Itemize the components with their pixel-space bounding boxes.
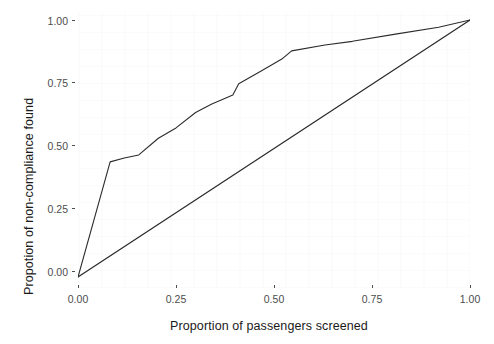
x-axis-title: Proportion of passengers screened — [0, 319, 494, 333]
x-tick-label-1: 0.25 — [153, 293, 199, 305]
x-tick-label-2: 0.50 — [251, 293, 297, 305]
x-tick-label-0: 0.00 — [55, 293, 101, 305]
y-tick-label-1: 0.25 — [32, 203, 68, 215]
y-tick-label-3: 0.75 — [32, 77, 68, 89]
y-tick-mark-3 — [72, 82, 75, 83]
chart-figure: Propotion of non-compliance found 0.00 0… — [0, 0, 494, 344]
y-tick-mark-1 — [72, 208, 75, 209]
y-tick-mark-2 — [72, 145, 75, 146]
y-tick-mark-0 — [72, 271, 75, 272]
x-tick-mark-3 — [372, 285, 373, 288]
x-tick-mark-0 — [78, 285, 79, 288]
y-tick-label-4: 1.00 — [32, 15, 68, 27]
series-line-random-baseline — [78, 12, 470, 286]
x-tick-mark-4 — [470, 285, 471, 288]
plot-panel — [78, 12, 470, 288]
x-tick-mark-1 — [176, 285, 177, 288]
x-tick-label-4: 1.00 — [447, 293, 493, 305]
y-tick-label-0: 0.00 — [32, 266, 68, 278]
series-layer — [78, 12, 470, 286]
plot-area — [78, 12, 470, 288]
y-tick-mark-4 — [72, 20, 75, 21]
x-tick-label-3: 0.75 — [349, 293, 395, 305]
x-tick-mark-2 — [274, 285, 275, 288]
y-tick-label-2: 0.50 — [32, 140, 68, 152]
